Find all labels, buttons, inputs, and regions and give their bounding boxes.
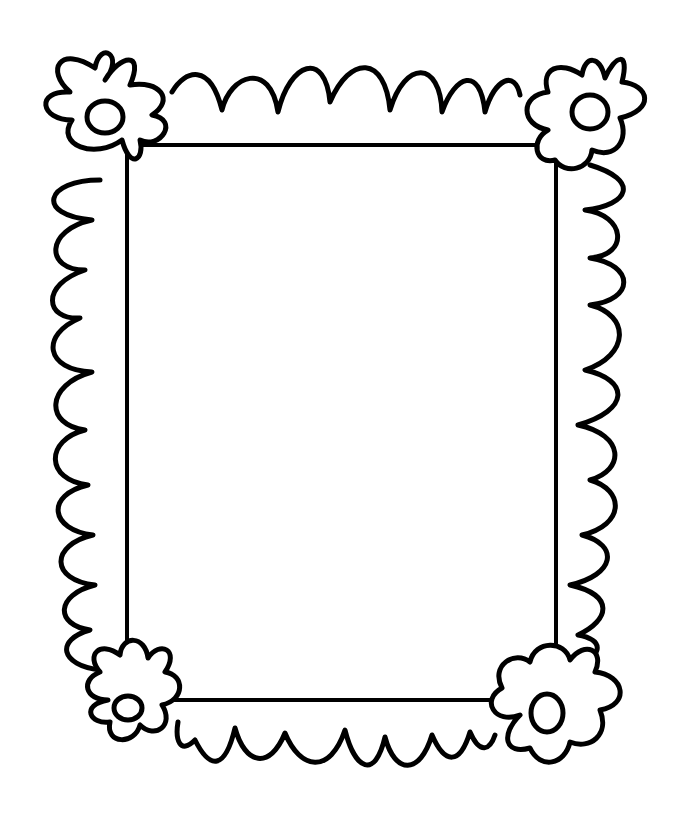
frame-illustration <box>0 0 700 835</box>
flower-center <box>531 694 563 732</box>
flower-center <box>114 696 142 720</box>
flower-center <box>87 101 123 133</box>
flower-center <box>572 95 608 129</box>
frame-drawing <box>0 0 700 835</box>
